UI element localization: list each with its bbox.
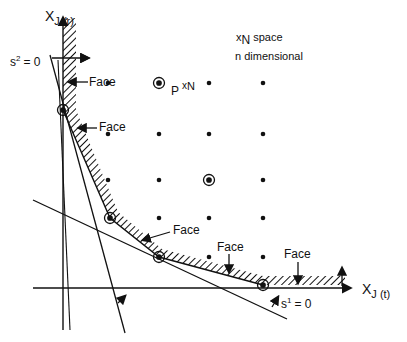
face-label-5: Face xyxy=(284,247,311,261)
space-label-line2: n dimensional xyxy=(235,50,303,62)
face-label-3: Face xyxy=(173,223,200,237)
s1-label: s1= 0 xyxy=(281,296,312,311)
space-label-line1: xNspace xyxy=(236,31,283,47)
integer-hull-diagram: XJ (r) XJ (t) xNspace n dimensional PxN … xyxy=(0,0,407,342)
hull-boundary xyxy=(63,110,263,285)
constraint-line-s2 xyxy=(50,55,125,333)
s2-label: s2= 0 xyxy=(10,54,41,69)
face-label-2: Face xyxy=(99,120,126,134)
s1-normal-arrow xyxy=(272,297,278,307)
horizontal-axis-label: XJ (t) xyxy=(362,281,390,300)
face-label-1: Face xyxy=(89,75,116,89)
face-label-4: Face xyxy=(217,240,244,254)
vertical-axis-label: XJ (r) xyxy=(45,8,74,27)
polytope-label: PxN xyxy=(171,80,195,98)
